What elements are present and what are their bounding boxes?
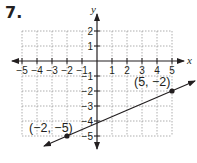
x-tick-label: −3 bbox=[46, 65, 58, 76]
point-label: (−2, −5) bbox=[29, 121, 73, 135]
x-axis-label: x bbox=[186, 54, 192, 66]
y-axis-label: y bbox=[90, 3, 96, 15]
y-tick-label: 1 bbox=[87, 41, 93, 52]
x-tick-label: 2 bbox=[124, 65, 130, 76]
y-tick-label: −2 bbox=[82, 86, 94, 97]
plotted-line bbox=[44, 136, 67, 146]
x-tick-label: −4 bbox=[31, 65, 43, 76]
y-tick-label: −5 bbox=[82, 131, 94, 142]
y-tick-label: 2 bbox=[87, 26, 93, 37]
x-tick-label: −5 bbox=[16, 65, 28, 76]
y-tick-label: −1 bbox=[82, 71, 94, 82]
point-5-neg2 bbox=[169, 88, 174, 93]
y-tick-label: −3 bbox=[82, 101, 94, 112]
x-tick-label: 1 bbox=[109, 65, 115, 76]
x-tick-label: −2 bbox=[61, 65, 73, 76]
coordinate-graph: −5 −4 −3 −2 −1 1 2 3 4 5 2 1 −1 −2 −3 −4… bbox=[0, 0, 197, 163]
point-label: (5, −2) bbox=[134, 75, 170, 89]
